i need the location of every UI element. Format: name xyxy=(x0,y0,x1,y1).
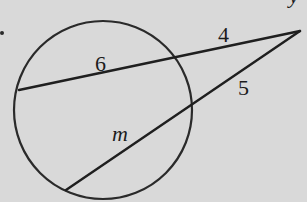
cropped-letter-fragment: y xyxy=(287,0,299,8)
label-upper-external: 4 xyxy=(218,22,229,47)
label-lower-chord: m xyxy=(112,121,128,146)
secant-diagram: y 6 4 5 m xyxy=(0,0,307,202)
label-lower-external: 5 xyxy=(238,75,249,100)
label-upper-chord: 6 xyxy=(95,51,106,76)
circle xyxy=(14,21,192,199)
stray-dot xyxy=(0,31,4,35)
